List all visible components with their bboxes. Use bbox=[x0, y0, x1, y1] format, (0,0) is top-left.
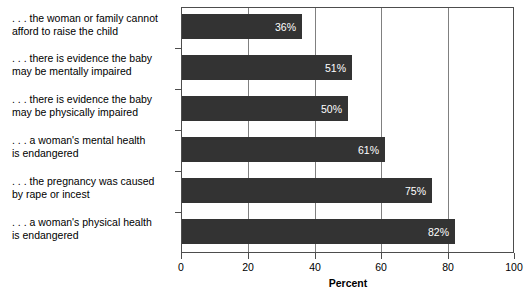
category-label-4: . . . the pregnancy was caused by rape o… bbox=[12, 175, 176, 201]
category-label-2: . . . there is evidence the baby may be … bbox=[12, 93, 176, 119]
bar-value-3: 61% bbox=[358, 144, 379, 156]
x-axis-title: Percent bbox=[181, 277, 515, 289]
bar-value-1: 51% bbox=[325, 62, 346, 74]
bar-value-2: 50% bbox=[321, 103, 342, 115]
bar-1[interactable]: 51% bbox=[182, 55, 352, 80]
bar-3[interactable]: 61% bbox=[182, 137, 385, 162]
bar-chart-figure: . . . the woman or family cannot afford … bbox=[0, 0, 529, 296]
bars-group: 36% 51% 50% 61% 75% 82% bbox=[182, 8, 513, 252]
bar-5[interactable]: 82% bbox=[182, 219, 455, 244]
x-axis-ticks bbox=[181, 253, 515, 261]
x-axis-tick-80 bbox=[448, 253, 449, 259]
bar-value-5: 82% bbox=[428, 226, 449, 238]
bar-4[interactable]: 75% bbox=[182, 178, 432, 203]
category-label-5: . . . a woman's physical health is endan… bbox=[12, 216, 176, 242]
x-axis-tick-0 bbox=[181, 253, 182, 259]
x-axis-tick-label-80: 80 bbox=[442, 261, 454, 274]
category-label-1: . . . there is evidence the baby may be … bbox=[12, 52, 176, 78]
category-label-column: . . . the woman or family cannot afford … bbox=[0, 7, 176, 253]
category-label-0: . . . the woman or family cannot afford … bbox=[12, 12, 176, 38]
x-axis-tick-label-40: 40 bbox=[309, 261, 321, 274]
x-axis-tick-40 bbox=[315, 253, 316, 259]
bar-2[interactable]: 50% bbox=[182, 96, 348, 121]
x-axis-tick-100 bbox=[514, 253, 515, 259]
x-axis-tick-label-0: 0 bbox=[178, 261, 184, 274]
x-axis-tick-label-100: 100 bbox=[505, 261, 523, 274]
category-label-3: . . . a woman's mental health is endange… bbox=[12, 134, 176, 160]
bar-value-0: 36% bbox=[275, 21, 296, 33]
x-axis-tick-label-20: 20 bbox=[242, 261, 254, 274]
bar-value-4: 75% bbox=[405, 185, 426, 197]
x-axis-tick-label-60: 60 bbox=[375, 261, 387, 274]
x-axis-tick-60 bbox=[381, 253, 382, 259]
plot-area: 36% 51% 50% 61% 75% 82% bbox=[181, 7, 514, 253]
x-axis-tick-20 bbox=[248, 253, 249, 259]
x-axis-tick-labels: 0 20 40 60 80 100 bbox=[181, 261, 515, 275]
bar-0[interactable]: 36% bbox=[182, 14, 302, 39]
